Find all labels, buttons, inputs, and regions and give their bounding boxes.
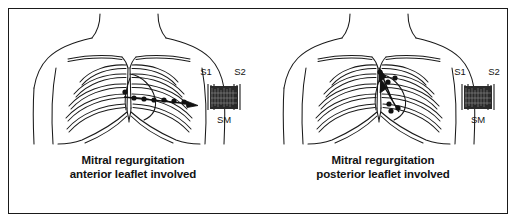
figure-root: S1 S2 bbox=[0, 0, 517, 223]
panel-anterior-leaflet: S1 S2 bbox=[8, 8, 258, 214]
panel-posterior-leaflet: S1 S2 bbox=[258, 8, 508, 214]
s1-label: S1 bbox=[454, 66, 466, 77]
caption-line-2: posterior leaflet involved bbox=[258, 168, 508, 182]
sm-label: SM bbox=[471, 114, 485, 125]
phonocardiogram-posterior: S1 S2 bbox=[450, 60, 512, 134]
systolic-murmur-block bbox=[464, 86, 492, 109]
s1-label: S1 bbox=[200, 66, 212, 77]
caption-line-1: Mitral regurgitation bbox=[258, 154, 508, 168]
caption-anterior-leaflet: Mitral regurgitation anterior leaflet in… bbox=[8, 154, 258, 181]
sm-label: SM bbox=[217, 114, 231, 125]
s2-label: S2 bbox=[234, 66, 246, 77]
caption-line-2: anterior leaflet involved bbox=[8, 168, 258, 182]
s2-label: S2 bbox=[488, 66, 500, 77]
phonocardiogram-anterior: S1 S2 bbox=[196, 60, 258, 134]
caption-posterior-leaflet: Mitral regurgitation posterior leaflet i… bbox=[258, 154, 508, 181]
systolic-murmur-block bbox=[210, 86, 238, 109]
caption-line-1: Mitral regurgitation bbox=[8, 154, 258, 168]
